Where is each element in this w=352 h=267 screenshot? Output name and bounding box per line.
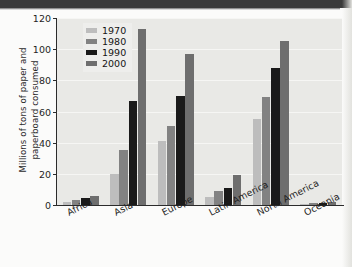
y-tick-label: 120 [33, 13, 51, 24]
y-tick-label: 100 [33, 44, 51, 55]
legend-item: 2000 [86, 58, 126, 69]
legend-swatch-icon [86, 28, 97, 33]
y-tick-mark [53, 80, 57, 81]
plot-frame: 020406080100120 AfricaAsiaEuropeLatin Am… [57, 18, 342, 205]
legend-swatch-icon [86, 50, 97, 55]
x-axis-line [56, 205, 344, 206]
y-axis-title-line-1: Millions of tons of paper and [18, 48, 30, 173]
bar-group [200, 18, 248, 205]
chart-page: Millions of tons of paper and paperboard… [0, 0, 352, 267]
legend-item: 1980 [86, 36, 126, 47]
y-tick-label: 60 [39, 106, 51, 117]
bar [271, 68, 280, 205]
y-tick-mark [53, 143, 57, 144]
bar [129, 101, 138, 205]
legend-label: 2000 [102, 58, 126, 69]
legend-item: 1990 [86, 47, 126, 58]
bar-group [247, 18, 295, 205]
y-tick-mark [53, 205, 57, 206]
y-tick-mark [53, 18, 57, 19]
scan-edge-band [0, 0, 352, 8]
y-tick-label: 80 [39, 75, 51, 86]
legend: 1970198019902000 [83, 23, 132, 72]
bar [119, 150, 128, 205]
legend-item: 1970 [86, 25, 126, 36]
legend-label: 1980 [102, 36, 126, 47]
legend-label: 1970 [102, 25, 126, 36]
bar [158, 141, 167, 205]
y-tick-mark [53, 174, 57, 175]
legend-swatch-icon [86, 61, 97, 66]
y-tick-mark [53, 49, 57, 50]
scan-edge-shadow [342, 0, 352, 267]
bar [185, 54, 194, 205]
bar [167, 126, 176, 205]
bar [110, 174, 119, 205]
bar [138, 29, 147, 205]
y-tick-label: 0 [45, 200, 51, 211]
bar-group [152, 18, 200, 205]
bar [280, 41, 289, 205]
y-tick-label: 40 [39, 137, 51, 148]
legend-label: 1990 [102, 47, 126, 58]
y-tick-label: 20 [39, 168, 51, 179]
bar [176, 96, 185, 205]
bar-group [295, 18, 343, 205]
legend-swatch-icon [86, 39, 97, 44]
y-tick-mark [53, 112, 57, 113]
